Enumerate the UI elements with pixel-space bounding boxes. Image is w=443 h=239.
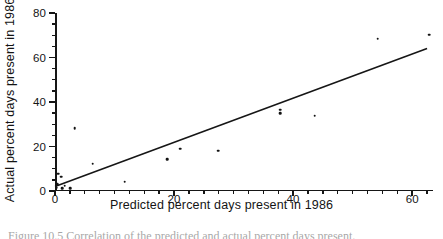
data-point — [69, 187, 72, 190]
data-point — [56, 183, 59, 186]
x-axis-title: Predicted percent days present in 1986 — [0, 198, 443, 212]
data-point — [60, 175, 63, 178]
y-tick-label-80: 80 — [33, 7, 46, 19]
data-point — [376, 38, 379, 41]
y-tick-label-40: 40 — [33, 96, 46, 108]
y-tick-label-60: 60 — [33, 52, 46, 64]
data-point — [123, 180, 126, 183]
data-point — [166, 158, 169, 161]
data-point — [217, 149, 220, 152]
figure-container: Actual percent days present in 1986 0204… — [0, 0, 443, 239]
y-axis-title: Actual percent days present in 1986 — [3, 0, 17, 202]
data-point — [57, 172, 60, 175]
data-point — [179, 147, 182, 150]
plot-area: 020406080 0204060 — [55, 13, 433, 191]
data-point — [91, 163, 94, 166]
y-tick-label-20: 20 — [33, 141, 46, 153]
figure-caption: Figure 10.5 Correlation of the predicted… — [8, 229, 435, 239]
data-point — [55, 186, 58, 189]
data-point — [61, 187, 64, 190]
data-point — [73, 127, 76, 130]
data-point — [63, 184, 66, 187]
data-point — [313, 114, 316, 117]
y-axis-title-wrap: Actual percent days present in 1986 — [0, 0, 20, 200]
data-point — [428, 33, 431, 36]
data-point — [279, 112, 282, 115]
data-point — [279, 108, 282, 111]
y-tick-label-0: 0 — [40, 185, 47, 197]
